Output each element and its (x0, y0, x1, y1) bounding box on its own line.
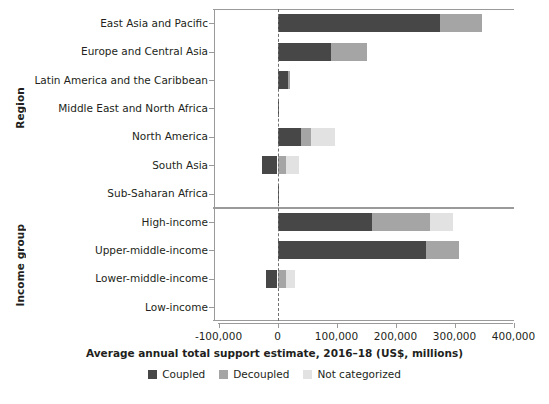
x-axis-tick (396, 323, 397, 328)
x-axis-tick-label: 400,000 (492, 330, 535, 342)
bar-segment (286, 270, 295, 288)
x-axis-line (218, 323, 513, 324)
bar-row (0, 241, 549, 259)
x-axis-tick (455, 323, 456, 328)
bar-segment (372, 213, 430, 231)
bar-segment (278, 213, 373, 231)
bar-row (0, 213, 549, 231)
legend-label: Not categorized (317, 368, 400, 380)
bar-row (0, 43, 549, 61)
bar-segment (430, 213, 453, 231)
legend-label: Coupled (162, 368, 205, 380)
bar-segment (286, 156, 299, 174)
legend-label: Decoupled (233, 368, 289, 380)
x-axis-tick-label: 100,000 (315, 330, 358, 342)
bar-row (0, 71, 549, 89)
legend-swatch-icon (219, 370, 228, 379)
bar-segment (278, 270, 286, 288)
stacked-bar-chart: Region Income group East Asia and Pacifi… (0, 0, 549, 404)
bar-segment (266, 270, 277, 288)
bar-segment (278, 43, 331, 61)
x-axis-tick (278, 323, 279, 328)
bar-row (0, 185, 549, 203)
x-axis-tick (514, 323, 515, 328)
bar-segment (262, 156, 278, 174)
panel-left-spine (214, 9, 215, 208)
x-axis-tick (219, 323, 220, 328)
x-axis-tick-label: 300,000 (433, 330, 476, 342)
x-axis-title: Average annual total support estimate, 2… (0, 347, 549, 359)
legend-swatch-icon (303, 370, 312, 379)
bar-row (0, 99, 549, 117)
bar-segment (278, 14, 441, 32)
x-axis-tick-label: 200,000 (374, 330, 417, 342)
bar-segment (440, 14, 482, 32)
bar-row (0, 270, 549, 288)
legend-item[interactable]: Decoupled (219, 368, 289, 380)
legend-item[interactable]: Coupled (148, 368, 205, 380)
bar-row (0, 128, 549, 146)
bar-row (0, 298, 549, 316)
legend-swatch-icon (148, 370, 157, 379)
chart-legend: CoupledDecoupledNot categorized (0, 368, 549, 380)
panel-left-spine (214, 208, 215, 322)
bar-segment (278, 128, 301, 146)
zero-reference-line (278, 9, 279, 321)
x-axis-tick-label: -100,000 (195, 330, 242, 342)
bar-segment (288, 71, 290, 89)
x-axis-tick-label: 0 (274, 330, 281, 342)
bar-segment (426, 241, 459, 259)
bar-segment (278, 71, 289, 89)
legend-item[interactable]: Not categorized (303, 368, 400, 380)
bar-segment (301, 128, 311, 146)
bar-segment (278, 241, 426, 259)
bar-segment (311, 128, 336, 146)
bar-segment (278, 156, 287, 174)
bar-row (0, 156, 549, 174)
x-axis-tick (337, 323, 338, 328)
bar-row (0, 14, 549, 32)
bar-segment (331, 43, 368, 61)
